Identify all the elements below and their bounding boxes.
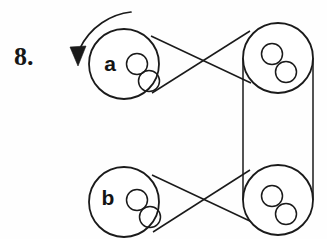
belt-bottom-crossed-segment bbox=[152, 175, 252, 222]
pulleys-group: ab bbox=[89, 23, 313, 237]
belt-bottom-crossed bbox=[152, 170, 252, 232]
pulley-bottom-right-rim bbox=[243, 165, 313, 235]
pulley-a: a bbox=[89, 29, 160, 99]
pulley-b-label: b bbox=[102, 186, 115, 209]
pulley-a-label: a bbox=[104, 52, 116, 75]
pulley-a-rim bbox=[89, 29, 159, 99]
belt-top-crossed bbox=[151, 31, 251, 93]
pulley-bottom-right bbox=[243, 165, 313, 235]
belt-bottom-crossed-segment bbox=[153, 170, 250, 232]
pulley-b: b bbox=[89, 167, 161, 237]
belt-top-crossed-segment bbox=[152, 31, 250, 93]
pulley-b-rim bbox=[89, 167, 159, 237]
pulley-top-right bbox=[243, 23, 313, 93]
pulley-diagram: ab bbox=[0, 0, 327, 239]
rotation-arrow-head-icon bbox=[70, 46, 86, 66]
figure-root: 8. ab bbox=[0, 0, 327, 239]
pulley-top-right-rim bbox=[243, 23, 313, 93]
belt-top-crossed-segment bbox=[151, 36, 251, 83]
